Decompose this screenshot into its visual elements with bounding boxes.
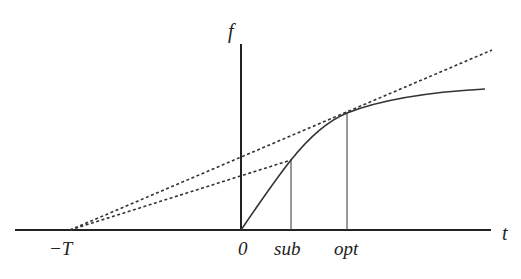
tick-label-opt: opt bbox=[334, 238, 359, 259]
x-axis-label: t bbox=[502, 222, 508, 244]
f-curve bbox=[241, 89, 485, 230]
y-axis-label: f bbox=[228, 20, 236, 43]
tick-label-zero: 0 bbox=[238, 238, 248, 259]
tick-label-neg-T: −T bbox=[49, 238, 74, 259]
tangent-line-opt bbox=[70, 50, 492, 230]
diagram-canvas: f t −T 0 sub opt bbox=[0, 0, 521, 279]
tick-label-sub: sub bbox=[274, 238, 300, 259]
line-to-sub bbox=[70, 160, 291, 230]
